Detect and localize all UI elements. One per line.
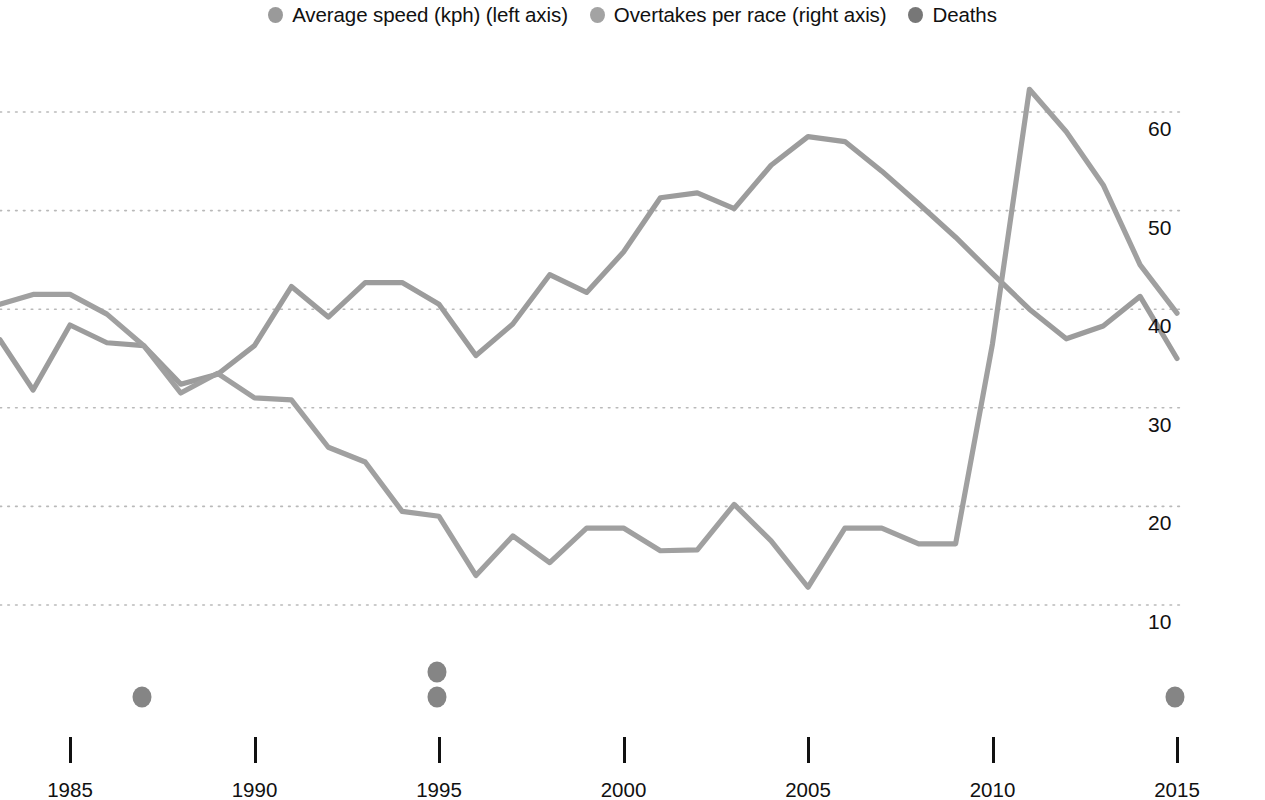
y-axis-tick-label: 10	[1148, 610, 1171, 634]
series-lines	[0, 89, 1177, 587]
y-axis-tick-label: 20	[1148, 511, 1171, 535]
chart-root: Average speed (kph) (left axis) Overtake…	[0, 0, 1265, 800]
x-axis-tick-mark	[438, 737, 441, 763]
y-axis-tick-label: 60	[1148, 117, 1171, 141]
circle-marker-icon	[268, 7, 283, 23]
circle-marker-icon	[590, 7, 605, 23]
x-axis-tick-label: 2000	[601, 778, 647, 800]
chart-legend: Average speed (kph) (left axis) Overtake…	[0, 0, 1265, 30]
x-axis-tick-mark	[1176, 737, 1179, 763]
y-axis-tick-label: 40	[1148, 314, 1171, 338]
death-marker-dot[interactable]	[428, 662, 447, 683]
x-axis-tick-label: 2010	[970, 778, 1016, 800]
legend-item-deaths[interactable]: Deaths	[908, 5, 996, 25]
chart-canvas	[0, 30, 1265, 800]
legend-label-average-speed: Average speed (kph) (left axis)	[292, 5, 568, 25]
death-marker-dot[interactable]	[428, 687, 447, 708]
plot-area: 102030405060 198519901995200020052010201…	[0, 30, 1265, 800]
series-line-overtakes	[0, 89, 1177, 587]
x-axis-tick-label: 1990	[232, 778, 278, 800]
gridlines	[0, 112, 1180, 605]
x-axis-tick-mark	[254, 737, 257, 763]
legend-label-deaths: Deaths	[932, 5, 996, 25]
series-line-average-speed	[0, 137, 1177, 390]
x-axis-tick-mark	[623, 737, 626, 763]
x-axis-tick-label: 1985	[47, 778, 93, 800]
circle-marker-icon	[908, 7, 923, 23]
x-axis-tick-label: 2015	[1154, 778, 1200, 800]
x-axis-tick-mark	[807, 737, 810, 763]
x-axis-tick-mark	[992, 737, 995, 763]
death-marker-dot[interactable]	[1166, 687, 1185, 708]
x-axis-tick-label: 2005	[785, 778, 831, 800]
x-axis-tick-label: 1995	[416, 778, 462, 800]
legend-item-average-speed[interactable]: Average speed (kph) (left axis)	[268, 5, 568, 25]
legend-label-overtakes: Overtakes per race (right axis)	[614, 5, 887, 25]
y-axis-tick-label: 50	[1148, 216, 1171, 240]
legend-item-overtakes[interactable]: Overtakes per race (right axis)	[590, 5, 887, 25]
death-marker-dot[interactable]	[132, 687, 151, 708]
y-axis-tick-label: 30	[1148, 413, 1171, 437]
x-axis-tick-mark	[69, 737, 72, 763]
